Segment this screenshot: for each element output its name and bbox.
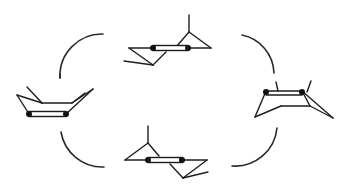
atom-dot [150,45,156,51]
conformer-top [124,15,211,65]
atom-dot [263,89,269,95]
double-bond [29,112,66,117]
atom-dot [299,89,305,95]
atom-dot [185,45,191,51]
conformer-left [17,74,93,117]
atom-dot [145,157,151,163]
conformer-right [255,81,333,118]
arc-right-to-bottom [232,128,277,166]
conformer-bottom [125,126,208,178]
atom-dot [63,111,69,117]
conformer-cycle-diagram [0,0,346,184]
atom-dot [179,157,185,163]
arc-bottom-to-left [61,132,104,167]
arc-left-to-top [60,34,103,78]
double-bond [153,46,188,51]
atom-dot [26,111,32,117]
double-bond [148,158,182,163]
arc-top-to-right [242,35,274,73]
